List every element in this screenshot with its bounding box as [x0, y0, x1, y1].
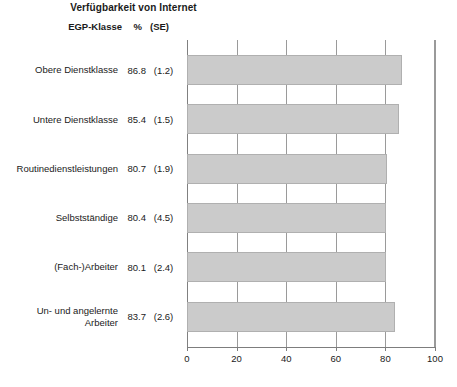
- gridline-100: [435, 40, 436, 348]
- row-percent-value: 85.4: [120, 114, 146, 125]
- x-tick-label: 20: [217, 353, 257, 364]
- row-stderr-value: (4.5): [148, 212, 179, 223]
- x-tick-label: 0: [167, 353, 207, 364]
- x-tick-label: 100: [415, 353, 455, 364]
- row-label: Un- und angelernte Arbeiter: [0, 305, 118, 328]
- table-row: Untere Dienstklasse85.4(1.5): [0, 104, 180, 134]
- column-header-category: EGP-Klasse: [0, 21, 122, 32]
- x-tick-40: [286, 347, 287, 351]
- row-label: Routinedienstleistungen: [0, 163, 118, 175]
- x-tick-60: [336, 347, 337, 351]
- row-stderr-value: (1.5): [148, 114, 179, 125]
- bar: [187, 302, 395, 332]
- row-percent-value: 80.4: [120, 212, 146, 223]
- row-label: Untere Dienstklasse: [0, 114, 118, 126]
- row-percent-value: 80.7: [120, 163, 146, 174]
- table-row: (Fach-)Arbeiter80.1(2.4): [0, 252, 180, 282]
- row-label: (Fach-)Arbeiter: [0, 261, 118, 273]
- x-tick-100: [435, 347, 436, 351]
- row-label: Selbstständige: [0, 212, 118, 224]
- x-tick-label: 40: [266, 353, 306, 364]
- table-row: Obere Dienstklasse86.8(1.2): [0, 55, 180, 85]
- plot-area: [187, 40, 435, 348]
- row-stderr-value: (2.6): [148, 311, 179, 322]
- x-tick-20: [237, 347, 238, 351]
- chart-container: Verfügbarkeit von Internet EGP-Klasse % …: [0, 0, 457, 387]
- column-header-stderr: (SE): [144, 21, 175, 32]
- bar: [187, 252, 386, 282]
- row-stderr-value: (1.2): [148, 65, 179, 76]
- x-tick-80: [385, 347, 386, 351]
- bar: [187, 203, 386, 233]
- x-tick-label: 60: [316, 353, 356, 364]
- bar: [187, 55, 402, 85]
- x-axis-line: [187, 347, 436, 348]
- row-stderr-value: (2.4): [148, 262, 179, 273]
- x-tick-0: [187, 347, 188, 351]
- row-percent-value: 80.1: [120, 262, 146, 273]
- bar: [187, 154, 387, 184]
- table-row: Un- und angelernte Arbeiter83.7(2.6): [0, 302, 180, 332]
- table-row: Routinedienstleistungen80.7(1.9): [0, 154, 180, 184]
- row-percent-value: 83.7: [120, 311, 146, 322]
- x-tick-label: 80: [365, 353, 405, 364]
- table-row: Selbstständige80.4(4.5): [0, 203, 180, 233]
- row-label-column: Obere Dienstklasse86.8(1.2)Untere Dienst…: [0, 40, 180, 348]
- chart-title: Verfügbarkeit von Internet: [0, 2, 267, 13]
- row-stderr-value: (1.9): [148, 163, 179, 174]
- bar: [187, 104, 399, 134]
- column-header-percent: %: [116, 21, 142, 32]
- row-percent-value: 86.8: [120, 65, 146, 76]
- row-label: Obere Dienstklasse: [0, 64, 118, 76]
